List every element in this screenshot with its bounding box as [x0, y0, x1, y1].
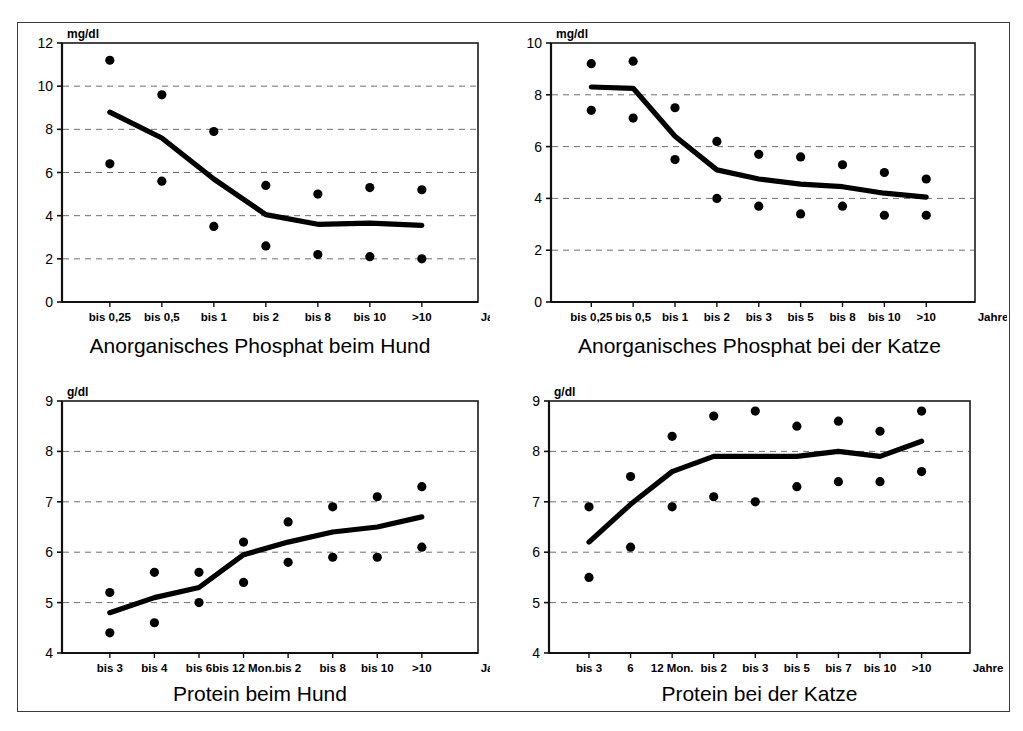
data-point	[105, 628, 114, 637]
data-point	[194, 568, 203, 577]
data-point	[796, 209, 805, 218]
data-point	[838, 202, 847, 211]
data-point	[880, 168, 889, 177]
y-tick-label: 2	[534, 242, 542, 258]
x-tick-label: bis 8	[305, 311, 332, 323]
data-point	[157, 177, 166, 186]
data-point	[712, 194, 721, 203]
y-tick-label: 8	[45, 443, 53, 459]
data-point	[328, 502, 337, 511]
y-tick-label: 6	[45, 165, 53, 181]
y-tick-label: 8	[45, 121, 53, 137]
data-point	[284, 558, 293, 567]
y-tick-label: 6	[45, 544, 53, 560]
chart-panel-protein-hund: 456789g/dlbis 3bis 4bis 6bis 12 Mon.bis …	[20, 383, 490, 678]
caption-protein-hund: Protein beim Hund	[40, 682, 480, 706]
y-tick-label: 12	[37, 35, 53, 51]
data-point	[670, 155, 679, 164]
x-tick-label: >10	[916, 311, 936, 323]
y-tick-label: 6	[534, 139, 542, 155]
data-point	[587, 59, 596, 68]
x-axis-unit-label: Jahre	[978, 311, 1007, 323]
data-point	[712, 137, 721, 146]
chart-svg-protein-hund: 456789g/dlbis 3bis 4bis 6bis 12 Mon.bis …	[20, 383, 490, 678]
data-point	[417, 254, 426, 263]
y-tick-label: 10	[37, 78, 53, 94]
data-point	[709, 492, 718, 501]
plot-frame	[62, 401, 478, 653]
data-point	[105, 159, 114, 168]
data-point	[365, 183, 374, 192]
caption-protein-katze: Protein bei der Katze	[512, 682, 1007, 706]
x-tick-label: bis 10	[868, 311, 901, 323]
x-tick-label: bis 2	[253, 311, 279, 323]
x-axis-unit-label: Jahre	[481, 311, 490, 323]
x-tick-label: bis 7	[825, 662, 851, 674]
y-tick-label: 4	[45, 208, 53, 224]
data-point	[838, 160, 847, 169]
x-tick-label: bis 3	[742, 662, 768, 674]
y-tick-label: 8	[534, 87, 542, 103]
data-point	[150, 568, 159, 577]
x-tick-label: bis 5	[788, 311, 815, 323]
x-tick-label: bis 6	[186, 662, 212, 674]
data-point	[209, 127, 218, 136]
x-tick-label: bis 8	[829, 311, 856, 323]
data-point	[796, 152, 805, 161]
data-point	[754, 150, 763, 159]
x-tick-label: bis 1	[662, 311, 689, 323]
data-point	[365, 252, 374, 261]
y-tick-label: 7	[532, 494, 540, 510]
chart-svg-protein-katze: 456789g/dlbis 3612 Mon.bis 2bis 3bis 5bi…	[512, 383, 1007, 678]
x-tick-label: bis 10	[354, 311, 387, 323]
x-tick-label: bis 0,25	[89, 311, 132, 323]
y-tick-label: 0	[45, 294, 53, 310]
chart-svg-phosphat-hund: 024681012mg/dlbis 0,25bis 0,5bis 1bis 2b…	[20, 26, 490, 326]
y-axis-unit-label: mg/dl	[67, 27, 99, 41]
data-point	[328, 553, 337, 562]
x-tick-label: >10	[912, 662, 932, 674]
data-point	[792, 422, 801, 431]
x-tick-label: bis 3	[576, 662, 602, 674]
plot-frame	[551, 43, 975, 302]
data-point	[239, 538, 248, 547]
y-tick-label: 4	[45, 645, 53, 661]
data-point	[261, 241, 270, 250]
data-point	[313, 189, 322, 198]
data-point	[709, 412, 718, 421]
x-tick-label: bis 2	[704, 311, 730, 323]
data-point	[417, 482, 426, 491]
x-tick-label: bis 3	[97, 662, 123, 674]
y-axis-unit-label: g/dl	[554, 385, 575, 399]
y-tick-label: 5	[45, 595, 53, 611]
y-tick-label: 5	[532, 595, 540, 611]
data-point	[584, 573, 593, 582]
y-tick-label: 4	[532, 645, 540, 661]
data-point	[875, 477, 884, 486]
y-axis-unit-label: mg/dl	[556, 27, 588, 41]
data-point	[150, 618, 159, 627]
data-point	[668, 502, 677, 511]
data-point	[417, 185, 426, 194]
data-point	[751, 497, 760, 506]
data-point	[922, 211, 931, 220]
y-tick-label: 7	[45, 494, 53, 510]
data-point	[105, 56, 114, 65]
data-point	[880, 211, 889, 220]
chart-svg-phosphat-katze: 0246810mg/dlbis 0,25bis 0,5bis 1bis 2bis…	[512, 26, 1007, 326]
caption-phosphat-katze: Anorganisches Phosphat bei der Katze	[512, 334, 1007, 358]
y-tick-label: 4	[534, 190, 542, 206]
x-tick-label: bis 2	[275, 662, 301, 674]
y-tick-label: 2	[45, 251, 53, 267]
chart-panel-protein-katze: 456789g/dlbis 3612 Mon.bis 2bis 3bis 5bi…	[512, 383, 1007, 678]
y-tick-label: 6	[532, 544, 540, 560]
data-point	[670, 103, 679, 112]
y-tick-label: 8	[532, 443, 540, 459]
x-tick-label: bis 12 Mon.	[212, 662, 275, 674]
data-point	[668, 432, 677, 441]
data-point	[875, 427, 884, 436]
data-point	[587, 106, 596, 115]
data-point	[209, 222, 218, 231]
y-tick-label: 0	[534, 294, 542, 310]
data-point	[917, 467, 926, 476]
